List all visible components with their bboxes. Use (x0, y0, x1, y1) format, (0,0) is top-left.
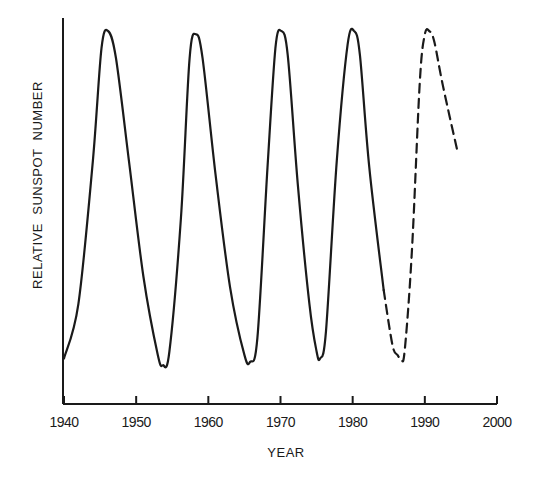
x-tick-label: 1960 (194, 414, 224, 430)
x-tick-label: 2000 (482, 414, 512, 430)
sunspot-chart: 1940195019601970198019902000 YEAR RELATI… (0, 0, 544, 480)
x-tick-label: 1970 (266, 414, 296, 430)
plot-lines (64, 29, 458, 368)
x-tick-label: 1990 (410, 414, 440, 430)
y-axis-label: RELATIVE SUNSPOT NUMBER (30, 81, 45, 289)
x-axis-ticks: 1940195019601970198019902000 (49, 396, 512, 430)
x-axis-label: YEAR (267, 445, 304, 460)
x-tick-label: 1980 (338, 414, 368, 430)
observed-series-line (64, 29, 384, 368)
x-tick-label: 1950 (122, 414, 152, 430)
predicted-series-line (384, 29, 458, 361)
x-tick-label: 1940 (49, 414, 79, 430)
